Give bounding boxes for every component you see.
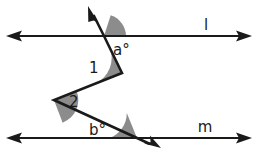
line-m-label: m xyxy=(198,118,213,136)
angle-a-wedge xyxy=(104,15,126,36)
angle-1-label: 1 xyxy=(89,59,99,77)
geometry-canvas: l m a° 1 2 b° xyxy=(0,0,258,155)
angle-b-label: b° xyxy=(89,121,106,139)
angle-b-wedge xyxy=(110,113,137,138)
line-l-label: l xyxy=(204,16,208,34)
line-l-group xyxy=(6,31,252,42)
angle-2-label: 2 xyxy=(69,93,79,111)
angle-a-label: a° xyxy=(113,41,130,59)
geometry-diagram: l m a° 1 2 b° xyxy=(0,0,258,155)
